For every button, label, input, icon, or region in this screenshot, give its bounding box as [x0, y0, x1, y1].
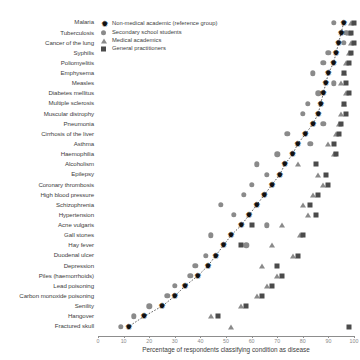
data-point-square [295, 253, 300, 258]
legend-item[interactable]: Medical academics [101, 37, 251, 45]
legend-label: General practitioners [112, 45, 166, 53]
data-point-square [341, 101, 346, 106]
y-axis-label: Malaria [74, 19, 94, 25]
data-point-star: ✹ [193, 271, 202, 280]
y-axis-label: Muscular distrophy [44, 111, 94, 117]
data-point-star: ✹ [339, 18, 348, 27]
data-point-star: ✹ [268, 180, 277, 189]
legend-item[interactable]: General practitioners [101, 45, 251, 53]
data-point-square [259, 294, 264, 299]
data-point-star: ✹ [204, 261, 213, 270]
y-axis-label: Asthma [74, 141, 94, 147]
data-point-star: ✹ [245, 211, 254, 220]
data-point-star: ✹ [324, 69, 333, 78]
data-point-square [326, 182, 331, 187]
x-axis-tick-label: 90 [325, 339, 331, 344]
y-axis-label: Syphilis [73, 50, 94, 56]
data-point-square [308, 202, 313, 207]
y-axis-label: Multiple sclerosis [49, 100, 95, 106]
data-point-square [313, 162, 318, 167]
data-point-star: ✹ [321, 79, 330, 88]
data-point-square [249, 223, 254, 228]
y-axis-label: Lead poisoning [53, 283, 94, 289]
data-point-star: ✹ [252, 200, 261, 209]
data-point-triangle [305, 213, 311, 218]
data-point-square [334, 152, 339, 157]
data-point-square [352, 20, 357, 25]
y-axis-label: Pneumonia [64, 121, 94, 127]
x-axis-tick-label: 40 [197, 339, 203, 344]
data-point-star: ✹ [280, 160, 289, 169]
data-point-square [346, 61, 351, 66]
data-point-square [346, 324, 351, 329]
y-axis-label: Coronary thrombosis [38, 182, 94, 188]
data-point-triangle [269, 243, 275, 248]
data-point-star: ✹ [227, 231, 236, 240]
data-point-star: ✹ [337, 28, 346, 37]
data-point-square [346, 91, 351, 96]
scatter-chart: MalariaTuberculosisCancer of the lungSyp… [0, 0, 360, 360]
data-point-star: ✹ [211, 251, 220, 260]
data-point-square [352, 40, 357, 45]
data-point-star: ✹ [334, 38, 343, 47]
x-axis-tick-label: 60 [249, 339, 255, 344]
circle-icon [101, 30, 106, 35]
triangle-icon [101, 38, 107, 43]
data-point-star: ✹ [170, 292, 179, 301]
data-point-star: ✹ [293, 140, 302, 149]
y-axis-label: Cancer of the lung [45, 40, 94, 46]
y-axis-label: Emphysema [61, 70, 94, 76]
y-axis-label: Duodenal ulcer [54, 252, 94, 258]
data-point-square [216, 314, 221, 319]
y-axis-label: Carbon monoxide poisoning [19, 293, 94, 299]
data-point-square [341, 71, 346, 76]
y-axis-label: Depression [64, 263, 94, 269]
x-axis-title: Percentage of respondents classifying co… [98, 346, 354, 353]
x-axis-tick-label: 70 [274, 339, 280, 344]
data-point-star: ✹ [260, 190, 269, 199]
x-axis: 0102030405060708090100 [98, 336, 354, 346]
x-axis-tick-label: 0 [97, 339, 100, 344]
data-point-square [313, 213, 318, 218]
data-point-triangle [279, 223, 285, 228]
data-point-triangle [315, 172, 321, 177]
chart-legend: ✹Non-medical academic (reference group)S… [101, 20, 251, 54]
data-point-square [275, 263, 280, 268]
y-axis-label: Hay fever [68, 242, 94, 248]
data-point-square [300, 233, 305, 238]
y-axis-label: Hangover [68, 313, 94, 319]
y-axis-label: Tuberculosis [60, 30, 94, 36]
data-point-triangle [295, 162, 301, 167]
data-point-square [349, 30, 354, 35]
x-axis-tick-label: 30 [172, 339, 178, 344]
y-axis-label: Schizophrenia [56, 202, 94, 208]
y-axis-label: Diabetes mellitus [48, 90, 94, 96]
data-point-star: ✹ [332, 48, 341, 57]
data-point-star: ✹ [301, 129, 310, 138]
data-point-star: ✹ [316, 99, 325, 108]
data-point-square [280, 273, 285, 278]
legend-item[interactable]: Secondary school students [101, 28, 251, 36]
data-point-star: ✹ [275, 170, 284, 179]
y-axis-label: Haemophilia [61, 151, 94, 157]
y-axis-label: Alcoholism [65, 161, 94, 167]
legend-label: Secondary school students [112, 29, 182, 37]
data-point-triangle [259, 263, 265, 268]
legend-item[interactable]: ✹Non-medical academic (reference group) [101, 20, 251, 28]
data-point-star: ✹ [309, 119, 318, 128]
data-point-star: ✹ [329, 59, 338, 68]
legend-label: Non-medical academic (reference group) [112, 20, 217, 28]
y-axis-label: Senility [75, 303, 94, 309]
y-axis-label: Acne vulgaris [58, 222, 94, 228]
reference-trend-line [98, 18, 354, 336]
data-point-triangle [300, 202, 306, 207]
data-point-star: ✹ [140, 312, 149, 321]
plot-area: ✹✹✹✹✹✹✹✹✹✹✹✹✹✹✹✹✹✹✹✹✹✹✹✹✹✹✹✹✹✹✹ [98, 18, 354, 336]
x-axis-tick-label: 100 [350, 339, 359, 344]
top-cropped-strip [0, 0, 360, 14]
data-point-square [316, 192, 321, 197]
data-point-star: ✹ [181, 281, 190, 290]
data-point-star: ✹ [124, 322, 133, 331]
data-point-triangle [228, 324, 234, 329]
y-axis-label: Epilepsy [71, 171, 94, 177]
